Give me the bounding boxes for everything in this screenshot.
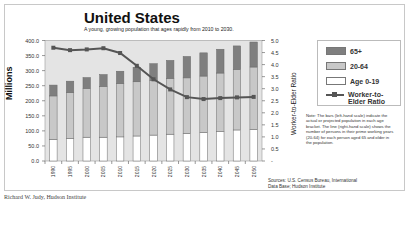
bar-segment	[233, 69, 241, 130]
chart-sources: Sources: U.S. Census Bureau, Internation…	[268, 178, 357, 189]
y2-tick-label: 5.0	[271, 38, 279, 44]
ratio-marker	[168, 87, 172, 91]
x-tick-label: 2020	[151, 166, 157, 177]
ratio-marker	[152, 77, 156, 81]
ratio-marker	[135, 64, 139, 68]
bar-segment	[200, 132, 208, 161]
sources-line-1: Sources: U.S. Census Bureau, Internation…	[268, 178, 357, 184]
legend-line-marker-icon	[326, 94, 344, 96]
sources-line-2: Data Base; Hudson Institute	[268, 184, 357, 190]
bar-segment	[83, 88, 91, 137]
x-tick-label: 2025	[167, 166, 173, 177]
ratio-marker	[252, 95, 256, 99]
x-tick-label: 2005	[100, 166, 106, 177]
ratio-marker	[51, 46, 55, 50]
x-tick-label: 2035	[201, 166, 207, 177]
bar-segment	[150, 135, 158, 161]
legend-label: Age 0-19	[350, 78, 379, 85]
x-tick-label: 2015	[134, 166, 140, 177]
bar-segment	[116, 71, 124, 83]
x-tick-label: 2010	[117, 166, 123, 177]
x-tick-label: 1995	[67, 166, 73, 177]
bar-segment	[133, 136, 141, 161]
bar-segment	[50, 85, 58, 96]
chart-legend: 65+ 20-64 Age 0-19 Worker-to-Elder Ratio	[317, 40, 401, 106]
bar-segment	[233, 130, 241, 161]
image-credit: Richard W. Judy, Hudson Institute	[4, 194, 86, 200]
y-tick-label: 200.0	[25, 98, 39, 104]
legend-label: 20-64	[350, 63, 368, 70]
y-tick-label: 300.0	[25, 68, 39, 74]
x-tick-label: 2040	[217, 166, 223, 177]
legend-item-ratio: Worker-to-Elder Ratio	[326, 91, 396, 105]
y-tick-label: 400.0	[25, 38, 39, 44]
y-tick-label: 100.0	[25, 128, 39, 134]
x-tick-label: 2050	[251, 166, 257, 177]
bar-segment	[66, 93, 74, 139]
bar-segment	[66, 81, 74, 92]
y-tick-label: 250.0	[25, 83, 39, 89]
ratio-marker	[101, 46, 105, 50]
bar-segment	[66, 138, 74, 161]
y-tick-label: 50.0	[28, 143, 39, 149]
bar-segment	[100, 75, 108, 87]
legend-label: Worker-to-Elder Ratio	[348, 91, 396, 105]
y2-tick-label: 2.0	[271, 110, 279, 116]
legend-swatch-20-64	[326, 62, 346, 70]
bar-segment	[183, 56, 191, 77]
legend-swatch-age-0-19	[326, 77, 346, 85]
bar-segment	[233, 46, 241, 69]
y2-tick-label: 4.0	[271, 62, 279, 68]
bar-segment	[183, 133, 191, 161]
bar-segment	[133, 82, 141, 136]
y2-tick-label: 2.5	[271, 98, 279, 104]
bar-segment	[116, 137, 124, 161]
y-tick-label: 150.0	[25, 113, 39, 119]
y-tick-label: 0.0	[31, 158, 39, 164]
y-tick-label: 350.0	[25, 53, 39, 59]
bar-segment	[100, 137, 108, 161]
y2-tick-label: 1.5	[271, 122, 279, 128]
legend-item-20-64: 20-64	[326, 62, 368, 70]
bar-segment	[200, 76, 208, 132]
bar-segment	[217, 49, 225, 73]
y2-tick-label: 4.5	[271, 50, 279, 56]
x-tick-label: 2000	[84, 166, 90, 177]
bar-segment	[150, 81, 158, 136]
bar-segment	[83, 78, 91, 89]
ratio-marker	[235, 95, 239, 99]
bar-segment	[250, 129, 258, 161]
ratio-marker	[218, 96, 222, 100]
chart-note: Note: The bars (left-hand scale) indicat…	[306, 113, 396, 145]
ratio-marker	[118, 51, 122, 55]
y2-tick-label: -	[271, 158, 273, 164]
bar-segment	[50, 139, 58, 161]
y2-tick-label: 0.5	[271, 146, 279, 152]
x-tick-label: 2045	[234, 166, 240, 177]
bar-segment	[217, 131, 225, 161]
ratio-marker	[202, 97, 206, 101]
bar-segment	[166, 134, 174, 161]
ratio-marker	[185, 95, 189, 99]
bar-segment	[116, 84, 124, 137]
bar-segment	[200, 53, 208, 76]
bar-segment	[83, 137, 91, 161]
bar-segment	[133, 67, 141, 81]
x-tick-label: 1990	[50, 166, 56, 177]
legend-label: 65+	[350, 48, 362, 55]
ratio-marker	[85, 47, 89, 51]
ratio-marker	[68, 48, 72, 52]
legend-swatch-65plus	[326, 47, 346, 55]
legend-item-65plus: 65+	[326, 47, 362, 55]
bar-segment	[217, 73, 225, 131]
y2-tick-label: 3.0	[271, 86, 279, 92]
y2-tick-label: 3.5	[271, 74, 279, 80]
legend-item-age-0-19: Age 0-19	[326, 77, 379, 85]
y2-tick-label: 1.0	[271, 134, 279, 140]
bar-segment	[166, 60, 174, 78]
bar-segment	[50, 96, 58, 139]
bar-segment	[100, 86, 108, 137]
x-tick-label: 2030	[184, 166, 190, 177]
bar-segment	[183, 78, 191, 133]
bar-segment	[250, 42, 258, 67]
